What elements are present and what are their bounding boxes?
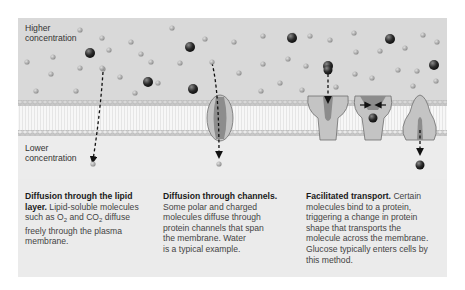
caption-text: membrane. xyxy=(25,236,155,247)
caption-facilitated-transport: Facilitated transport. Certain molecules… xyxy=(306,191,451,265)
caption-title: Diffusion through channels. xyxy=(163,191,277,201)
caption-text: Glucose typically enters cells by xyxy=(306,244,451,255)
caption-title: Diffusion through the lipid xyxy=(25,191,132,201)
caption-text: is a typical example. xyxy=(163,244,293,255)
caption-text: freely through the plasma xyxy=(25,226,155,237)
caption-text: the membrane. Water xyxy=(163,233,293,244)
caption-text: molecules bind to a protein, xyxy=(306,202,451,213)
label-line: concentration xyxy=(25,153,77,163)
caption-text: Certain xyxy=(391,191,421,201)
caption-title: layer. xyxy=(25,202,47,212)
caption-text: shape that transports the xyxy=(306,223,451,234)
label-line: Lower xyxy=(25,143,77,153)
caption-text: Lipid-soluble molecules xyxy=(47,202,139,212)
lower-concentration-label: Lower concentration xyxy=(25,143,77,163)
caption-text: diffuse xyxy=(102,212,130,222)
caption-text: such as O xyxy=(25,212,64,222)
label-line: Higher xyxy=(25,23,77,33)
small-molecules xyxy=(24,25,439,95)
caption-channel-diffusion: Diffusion through channels. Some polar a… xyxy=(163,191,293,255)
channel-protein xyxy=(207,59,233,166)
caption-text: this method. xyxy=(306,255,451,266)
caption-title: Facilitated transport. xyxy=(306,191,391,201)
higher-concentration-label: Higher concentration xyxy=(25,23,77,43)
caption-text: protein channels that span xyxy=(163,223,293,234)
label-line: concentration xyxy=(25,33,77,43)
caption-text: molecules diffuse through xyxy=(163,212,293,223)
caption-lipid-diffusion: Diffusion through the lipid layer. Lipid… xyxy=(25,191,155,247)
caption-text: molecule across the membrane. xyxy=(306,233,451,244)
caption-text: triggering a change in protein xyxy=(306,212,451,223)
caption-text: Some polar and charged xyxy=(163,202,293,213)
caption-text: and CO xyxy=(67,212,99,222)
